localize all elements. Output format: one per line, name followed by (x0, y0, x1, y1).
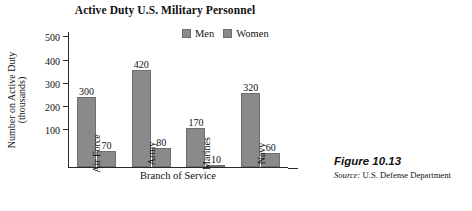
bar-women-army: 80 (152, 148, 171, 167)
x-axis-extension (288, 168, 298, 169)
plot-wrap: 100 200 300 400 500 300 70 (68, 32, 288, 168)
bar-group-army: 420 80 Army (128, 32, 174, 167)
bar-men-army: 420 (132, 70, 151, 167)
caption-block: Figure 10.13 Source: U.S. Defense Depart… (334, 155, 468, 180)
figure-root: Active Duty U.S. Military Personnel Men … (0, 0, 472, 211)
x-axis-title: Branch of Service (68, 170, 288, 181)
y-axis-title-line2: (thousands) (17, 52, 28, 148)
figure-source-value: U.S. Defense Department (363, 170, 451, 180)
bar-group-marines: 170 10 Marines (183, 32, 229, 167)
bar-value-men-navy: 320 (243, 82, 258, 93)
bar-men-marines: 170 (186, 128, 205, 167)
bar-groups: 300 70 Air Force 420 80 Army (69, 32, 288, 167)
y-tick-label-400: 400 (45, 55, 60, 66)
figure-source-key: Source: (334, 170, 360, 180)
bar-value-men-army: 420 (134, 59, 149, 70)
bar-value-men-marines: 170 (188, 117, 203, 128)
y-tick-label-200: 200 (45, 102, 60, 113)
bar-value-women-marines: 10 (211, 154, 221, 165)
bar-value-men-air-force: 300 (79, 86, 94, 97)
bar-women-air-force: 70 (97, 151, 116, 167)
bar-men-air-force: 300 (77, 97, 96, 167)
chart-title: Active Duty U.S. Military Personnel (0, 4, 330, 16)
figure-source: Source: U.S. Defense Department (334, 170, 468, 180)
plot-area: 100 200 300 400 500 300 70 (68, 32, 288, 168)
bar-value-women-air-force: 70 (101, 140, 111, 151)
bar-value-women-navy: 60 (266, 142, 276, 153)
figure-number: Figure 10.13 (334, 155, 468, 167)
bar-women-marines: 10 (206, 165, 225, 167)
bar-group-navy: 320 60 Navy (238, 32, 284, 167)
y-axis-title: Number on Active Duty (thousands) (6, 32, 28, 168)
bar-women-navy: 60 (261, 153, 280, 167)
y-tick-label-300: 300 (45, 78, 60, 89)
y-tick-label-500: 500 (45, 32, 60, 43)
bar-men-navy: 320 (241, 93, 260, 167)
bar-group-air-force: 300 70 Air Force (73, 32, 119, 167)
bar-value-women-army: 80 (156, 137, 166, 148)
y-tick-label-100: 100 (45, 125, 60, 136)
